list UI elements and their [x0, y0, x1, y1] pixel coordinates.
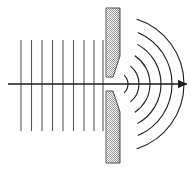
diffraction-diagram-canvas	[0, 0, 194, 173]
figure-background	[0, 0, 194, 173]
diffraction-figure: Single-slit wave diffraction Plane wavef…	[0, 0, 194, 173]
